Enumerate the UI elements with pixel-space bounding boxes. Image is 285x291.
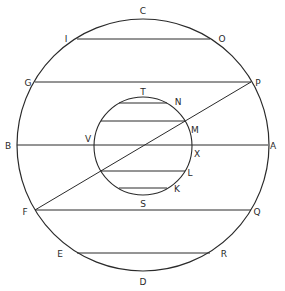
label-D: D [140, 277, 147, 287]
label-N: N [175, 97, 182, 107]
label-K: K [174, 184, 181, 194]
label-R: R [221, 249, 227, 259]
label-A: A [270, 141, 277, 151]
label-F: F [22, 207, 27, 217]
label-O: O [218, 34, 225, 44]
geometry-figure: CIOGPTNMVBAXLKSFQERD [0, 0, 285, 291]
label-M: M [191, 125, 199, 135]
label-B: B [5, 141, 11, 151]
label-S: S [140, 199, 146, 209]
label-Q: Q [253, 207, 260, 217]
label-G: G [25, 78, 32, 88]
label-E: E [57, 249, 63, 259]
line-FP [35, 82, 251, 210]
label-C: C [140, 6, 146, 16]
label-P: P [255, 78, 261, 88]
label-X: X [194, 149, 200, 159]
label-L: L [187, 168, 192, 178]
label-I: I [65, 34, 68, 44]
point-labels: CIOGPTNMVBAXLKSFQERD [5, 6, 277, 287]
label-T: T [139, 87, 146, 97]
label-V: V [85, 134, 92, 144]
figure-canvas: CIOGPTNMVBAXLKSFQERD [0, 0, 285, 291]
